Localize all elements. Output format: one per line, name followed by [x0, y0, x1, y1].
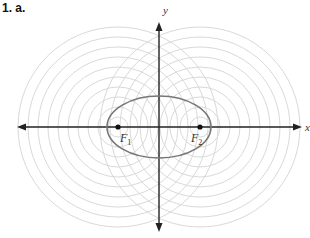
focus-label: F1 [119, 131, 131, 147]
focus-point [197, 124, 202, 129]
x-axis-right-arrow-icon [293, 124, 302, 131]
ellipse-foci-diagram: xy F1F2 [0, 0, 310, 238]
x-axis-label: x [304, 121, 310, 133]
y-axis-label: y [162, 4, 168, 16]
focus-label: F2 [190, 131, 202, 147]
focus-point [115, 124, 120, 129]
y-axis-up-arrow-icon [156, 22, 163, 31]
y-axis-down-arrow-icon [156, 223, 163, 232]
